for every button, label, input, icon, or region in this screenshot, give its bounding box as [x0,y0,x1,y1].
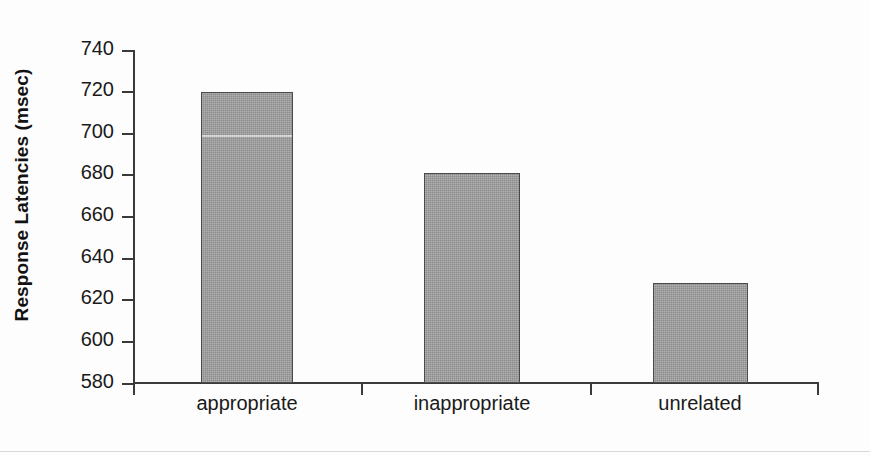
y-tick-label-720: 720 [58,78,114,101]
y-tick-label-700: 700 [58,120,114,143]
bar-unrelated[interactable] [653,283,748,383]
bar-chart-figure: Response Latencies (msec) 740 720 700 68… [0,0,870,457]
scan-artifact-line [202,135,292,137]
x-category-label-unrelated: unrelated [638,392,762,415]
y-tick-label-580: 580 [58,370,114,393]
y-tick-label-740: 740 [58,37,114,60]
y-tick-mark-680 [122,174,134,176]
y-tick-mark-740 [122,50,134,52]
y-tick-label-680: 680 [58,161,114,184]
x-tick-mark-start [133,384,135,395]
y-tick-mark-700 [122,133,134,135]
x-category-label-appropriate: appropriate [177,392,317,415]
page-scan-artifact [0,451,870,452]
y-tick-mark-600 [122,341,134,343]
x-tick-mark-1 [361,384,363,395]
y-axis-title: Response Latencies (msec) [0,0,44,390]
x-tick-mark-2 [590,384,592,395]
y-tick-label-660: 660 [58,203,114,226]
y-tick-mark-640 [122,258,134,260]
y-tick-label-600: 600 [58,328,114,351]
x-category-label-inappropriate: inappropriate [393,392,551,415]
y-tick-label-620: 620 [58,286,114,309]
bar-appropriate[interactable] [201,92,293,383]
y-axis-title-text: Response Latencies (msec) [11,69,33,322]
y-tick-mark-620 [122,299,134,301]
x-tick-mark-end [817,384,819,395]
y-tick-mark-720 [122,91,134,93]
y-tick-label-640: 640 [58,245,114,268]
bar-inappropriate[interactable] [424,173,520,383]
y-tick-mark-660 [122,216,134,218]
